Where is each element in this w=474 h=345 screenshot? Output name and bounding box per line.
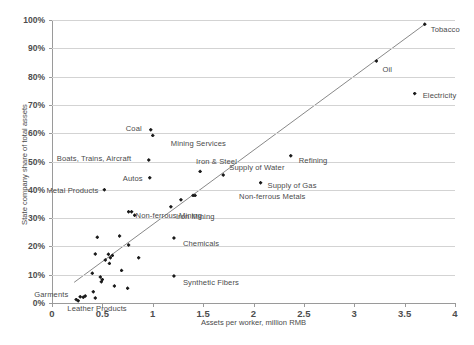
- x-tick-mark: [52, 303, 53, 307]
- point-label: Mining Services: [171, 139, 226, 148]
- y-tick-mark: [49, 275, 52, 276]
- gridline: [52, 218, 455, 219]
- point-label: Supply of Gas: [268, 181, 317, 190]
- point-label: Electricity: [423, 91, 457, 100]
- y-tick-label: 90%: [0, 43, 45, 53]
- point-label: Metal Products: [46, 186, 98, 195]
- point-label: Non-ferrous Metals: [239, 192, 305, 201]
- point-label: Coal: [126, 124, 142, 133]
- y-tick-mark: [49, 20, 52, 21]
- gridline: [52, 105, 455, 106]
- gridline: [52, 20, 455, 21]
- x-tick-mark: [102, 303, 103, 307]
- y-tick-label: 100%: [0, 15, 45, 25]
- x-axis-title: Assets per worker, million RMB: [52, 318, 455, 327]
- x-tick-label: 2: [251, 308, 256, 319]
- y-tick-label: 80%: [0, 72, 45, 82]
- gridline: [52, 133, 455, 134]
- plot-area: TobaccoOilElectricityRefiningSupply of G…: [52, 20, 455, 303]
- y-tick-mark: [49, 218, 52, 219]
- y-tick-mark: [49, 48, 52, 49]
- y-axis-title-wrap: State company share of total assets: [8, 10, 24, 300]
- y-tick-label: 30%: [0, 213, 45, 223]
- y-tick-label: 0%: [0, 298, 45, 308]
- point-label: Synthetic Fibers: [183, 278, 239, 287]
- point-label: Oil: [382, 65, 392, 74]
- y-tick-label: 40%: [0, 185, 45, 195]
- x-tick-mark: [203, 303, 204, 307]
- x-tick-label: 0.5: [96, 308, 109, 319]
- gridline: [52, 275, 455, 276]
- y-tick-mark: [49, 246, 52, 247]
- point-label: Supply of Water: [229, 163, 284, 172]
- x-tick-mark: [153, 303, 154, 307]
- y-tick-mark: [49, 77, 52, 78]
- x-tick-label: 1: [150, 308, 155, 319]
- x-tick-label: 4: [452, 308, 457, 319]
- x-tick-mark: [254, 303, 255, 307]
- x-tick-mark: [354, 303, 355, 307]
- y-tick-label: 70%: [0, 100, 45, 110]
- point-label: Boats, Trains, Aircraft: [57, 154, 131, 163]
- point-label: Autos: [123, 174, 143, 183]
- point-label: Tobacco: [431, 25, 460, 34]
- y-tick-label: 50%: [0, 157, 45, 167]
- scatter-chart: State company share of total assets Toba…: [0, 0, 474, 345]
- x-tick-mark: [304, 303, 305, 307]
- x-tick-label: 2.5: [297, 308, 310, 319]
- y-tick-label: 20%: [0, 241, 45, 251]
- point-label: Iron & Steel: [196, 157, 237, 166]
- y-tick-mark: [49, 105, 52, 106]
- gridline: [52, 77, 455, 78]
- point-label: Iron Mining: [176, 212, 215, 221]
- point-label: Refining: [299, 156, 328, 165]
- gridline: [52, 246, 455, 247]
- x-tick-mark: [455, 303, 456, 307]
- x-tick-label: 3: [352, 308, 357, 319]
- gridline: [52, 48, 455, 49]
- x-tick-label: 0: [49, 308, 54, 319]
- gridline: [52, 190, 455, 191]
- y-tick-mark: [49, 162, 52, 163]
- y-tick-mark: [49, 133, 52, 134]
- point-label: Chemicals: [183, 239, 219, 248]
- y-tick-label: 60%: [0, 128, 45, 138]
- y-tick-label: 10%: [0, 270, 45, 280]
- x-tick-label: 1.5: [197, 308, 210, 319]
- x-tick-mark: [405, 303, 406, 307]
- x-tick-label: 3.5: [398, 308, 411, 319]
